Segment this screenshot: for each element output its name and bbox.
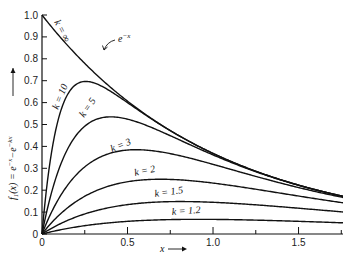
y-tick-label: 1.0 — [24, 10, 38, 21]
y-axis-title: f1(x) = e−x−e−kx — [6, 68, 20, 200]
annotation-e-minus-x: e−x — [103, 32, 132, 50]
curve-labels: k = ∞k = 10k = 5k = 3k = 2k = 1.5k = 1.2 — [50, 18, 201, 217]
y-tick-label: 0.2 — [24, 185, 38, 196]
y-tick-label: 0.7 — [24, 75, 38, 86]
y-tick-label: 0.5 — [24, 119, 38, 130]
curve-label: k = 1.5 — [154, 184, 184, 199]
y-tick-label: 0.3 — [24, 163, 38, 174]
curve-5 — [42, 117, 343, 234]
x-axis-title: x — [159, 243, 187, 254]
y-tick-label: 0.4 — [24, 141, 38, 152]
y-tick-label: 0.6 — [24, 97, 38, 108]
curve-label: k = 2 — [133, 163, 156, 178]
curve-1-2 — [42, 219, 343, 234]
curve-label: k = 5 — [77, 95, 98, 119]
curves — [42, 15, 343, 234]
x-tick-label: 1.0 — [206, 237, 220, 248]
annotation-label: e−x — [118, 32, 131, 44]
y-tick-label: 0 — [32, 229, 38, 240]
svg-text:x: x — [159, 243, 165, 254]
x-tick-label: 1.5 — [292, 237, 306, 248]
y-axis-arrow-icon — [11, 68, 16, 73]
y-tick-label: 0.1 — [24, 207, 38, 218]
x-tick-label: 0 — [39, 237, 45, 248]
chart-canvas: 00.10.20.30.40.50.60.70.80.91.000.51.01.… — [0, 0, 350, 256]
curve-label: k = 1.2 — [171, 204, 200, 217]
y-tick-label: 0.8 — [24, 53, 38, 64]
x-axis-arrow-icon — [182, 247, 187, 252]
y-tick-label: 0.9 — [24, 31, 38, 42]
x-tick-label: 0.5 — [121, 237, 135, 248]
svg-text:f1(x) = e−x−e−kx: f1(x) = e−x−e−kx — [6, 136, 20, 200]
